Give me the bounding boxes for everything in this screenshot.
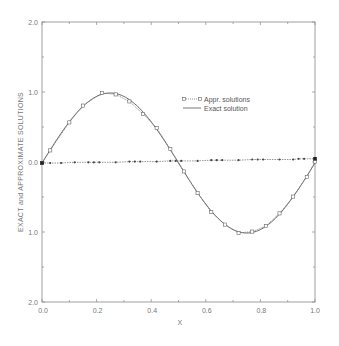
series-layer <box>40 91 317 234</box>
y-tick-label: 2.0 <box>28 19 38 26</box>
legend: Appr. solutions Exact solution <box>183 96 251 112</box>
dot-marker-icon <box>134 161 136 163</box>
dot-marker-icon <box>262 158 264 160</box>
square-marker-icon <box>251 230 254 233</box>
legend-item-exact: Exact solution <box>183 105 248 112</box>
x-tick-label: 0.2 <box>93 307 103 314</box>
end-marker-icon <box>313 157 317 161</box>
dot-marker-icon <box>221 159 223 161</box>
dot-marker-icon <box>98 161 100 163</box>
origin-marker-icon <box>40 161 44 165</box>
square-marker-icon <box>155 126 158 129</box>
x-tick-label: 0.4 <box>147 307 157 314</box>
square-marker-icon <box>49 149 52 152</box>
square-marker-icon <box>199 98 202 101</box>
square-marker-icon <box>278 212 281 215</box>
dot-marker-icon <box>292 158 294 160</box>
dot-marker-icon <box>93 161 95 163</box>
dot-marker-icon <box>156 161 158 163</box>
x-tick-label: 1.0 <box>310 307 320 314</box>
legend-label-exact: Exact solution <box>204 105 248 112</box>
square-marker-icon <box>141 112 144 115</box>
y-tick-label: 2.0 <box>28 299 38 306</box>
exact-solution-line <box>42 93 315 233</box>
dot-marker-icon <box>169 160 171 162</box>
square-marker-icon <box>114 93 117 96</box>
dot-marker-icon <box>128 161 130 163</box>
square-marker-icon <box>183 98 186 101</box>
square-marker-icon <box>210 210 213 213</box>
dot-marker-icon <box>303 158 305 160</box>
dot-marker-icon <box>257 158 259 160</box>
square-marker-icon <box>237 231 240 234</box>
dot-marker-icon <box>216 159 218 161</box>
x-tick-label: 0.8 <box>257 307 267 314</box>
square-marker-icon <box>169 147 172 150</box>
y-tick-label: 1.0 <box>28 229 38 236</box>
y-tick-labels: 2.0 1.0 0.0 1.0 2.0 <box>28 19 38 306</box>
y-tick-label: 0.0 <box>28 159 38 166</box>
dot-marker-icon <box>74 161 76 163</box>
square-marker-icon <box>100 91 103 94</box>
square-marker-icon <box>223 223 226 226</box>
dot-marker-icon <box>180 160 182 162</box>
chart: 2.0 1.0 0.0 1.0 2.0 0.0 0.2 0.4 0.6 0.8 … <box>0 0 339 346</box>
square-marker-icon <box>305 175 308 178</box>
dot-marker-icon <box>115 161 117 163</box>
square-marker-icon <box>264 224 267 227</box>
dot-marker-icon <box>49 162 51 164</box>
dot-marker-icon <box>87 161 89 163</box>
dot-marker-icon <box>139 161 141 163</box>
dot-marker-icon <box>237 159 239 161</box>
legend-label-approx: Appr. solutions <box>204 96 250 104</box>
legend-item-approx: Appr. solutions <box>183 96 251 104</box>
x-tick-label: 0.6 <box>202 307 212 314</box>
square-marker-icon <box>196 192 199 195</box>
dot-marker-icon <box>210 159 212 161</box>
dot-marker-icon <box>60 162 62 164</box>
square-marker-icon <box>81 104 84 107</box>
dot-marker-icon <box>298 158 300 160</box>
dot-marker-icon <box>251 158 253 160</box>
x-tick-labels: 0.0 0.2 0.4 0.6 0.8 1.0 <box>38 307 320 314</box>
square-marker-icon <box>68 121 71 124</box>
square-marker-icon <box>292 195 295 198</box>
x-axis-title: X <box>178 319 183 326</box>
x-tick-label: 0.0 <box>38 307 48 314</box>
dot-marker-icon <box>278 158 280 160</box>
dot-marker-icon <box>175 160 177 162</box>
y-tick-label: 1.0 <box>28 89 38 96</box>
y-axis-title: EXACT and APPROXIMATE SOLUTIONS <box>17 92 24 232</box>
dot-marker-icon <box>197 160 199 162</box>
square-marker-icon <box>128 100 131 103</box>
square-marker-icon <box>182 170 185 173</box>
